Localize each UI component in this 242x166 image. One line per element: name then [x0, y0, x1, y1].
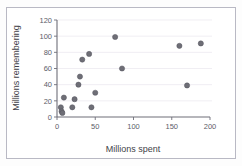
data-point [61, 95, 66, 100]
data-point [113, 34, 118, 39]
data-point [89, 105, 94, 110]
data-point [198, 41, 203, 46]
data-point [87, 51, 92, 56]
data-point [177, 43, 182, 48]
x-tick-label: 0 [55, 122, 59, 131]
x-axis-title: Millions spent [106, 144, 161, 154]
y-tick-label: 120 [39, 16, 52, 25]
data-points-group [58, 34, 203, 115]
y-tick-label: 40 [44, 80, 52, 89]
y-tick-group: 020406080100120 [39, 16, 57, 122]
y-tick-label: 100 [39, 32, 52, 41]
data-point [72, 97, 77, 102]
y-tick-label: 0 [48, 113, 52, 122]
data-point [70, 105, 75, 110]
data-point [60, 110, 65, 115]
data-point [77, 74, 82, 79]
x-tick-label: 100 [127, 122, 140, 131]
data-point [119, 66, 124, 71]
data-point [76, 82, 81, 87]
data-point [93, 90, 98, 95]
scatter-plot-canvas: 020406080100120 050100150200 Millions sp… [0, 0, 242, 166]
y-axis-title: Millions remembering [11, 25, 21, 111]
x-tick-label: 200 [204, 122, 217, 131]
data-point [80, 57, 85, 62]
data-point [184, 83, 189, 88]
y-tick-label: 60 [44, 64, 52, 73]
scatter-plot-figure: 020406080100120 050100150200 Millions sp… [0, 0, 242, 166]
x-tick-label: 150 [165, 122, 178, 131]
y-tick-label: 80 [44, 48, 52, 57]
x-tick-label: 50 [91, 122, 99, 131]
x-tick-group: 050100150200 [55, 117, 216, 131]
y-tick-label: 20 [44, 97, 52, 106]
